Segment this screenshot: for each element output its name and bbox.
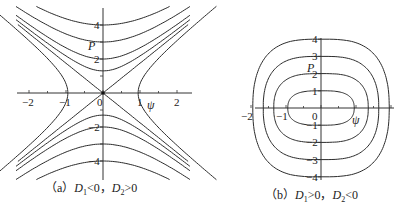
panel-b-x-label: ψ <box>352 113 360 127</box>
y-tick-label: 2 <box>94 53 100 65</box>
panel-a-caption: （a）D1<0，D2>0 <box>45 178 137 197</box>
y-tick-label: 4 <box>312 33 318 45</box>
y-tick-label: −2 <box>306 136 318 148</box>
caption-b-prefix: （b） <box>265 188 295 202</box>
panel-b-y-label: P <box>306 61 315 75</box>
y-tick-label: −3 <box>306 154 318 166</box>
x-tick-label: −2 <box>22 96 34 108</box>
y-tick-label: −4 <box>88 155 100 167</box>
x-tick-label: 1 <box>137 96 143 108</box>
y-tick-label: −4 <box>306 171 318 183</box>
x-tick-label: −2 <box>241 110 253 122</box>
x-tick-label: −1 <box>276 110 288 122</box>
caption-a-d1: D <box>74 181 83 195</box>
panel-a-plot: −2−1012−4−224 P ψ <box>0 6 216 180</box>
panel-b-plot: −2−10−4−3−2−11234 P ψ <box>241 33 394 183</box>
panel-a-x-label: ψ <box>147 98 155 112</box>
panel-a-saddle-point <box>101 91 105 95</box>
caption-a-rel2: >0 <box>124 181 137 195</box>
x-tick-label: 0 <box>97 96 103 108</box>
x-tick-label: −1 <box>59 96 71 108</box>
x-tick-label: 2 <box>174 96 180 108</box>
y-tick-label: −1 <box>306 119 318 131</box>
caption-b-d2: D <box>332 188 341 202</box>
y-tick-label: 4 <box>94 19 100 31</box>
caption-b-d1: D <box>295 188 304 202</box>
caption-b-rel2: <0 <box>345 188 358 202</box>
caption-a-prefix: （a） <box>45 181 74 195</box>
caption-a-rel1: <0， <box>87 181 112 195</box>
panel-a-y-label: P <box>87 39 96 53</box>
y-tick-label: 1 <box>312 85 318 97</box>
panel-b-caption: （b）D1>0，D2<0 <box>265 185 358 204</box>
figure: −2−1012−4−224 P ψ −2−10−4−3−2−11234 P ψ <box>0 0 408 208</box>
caption-b-rel1: >0， <box>308 188 333 202</box>
y-tick-label: −2 <box>88 121 100 133</box>
